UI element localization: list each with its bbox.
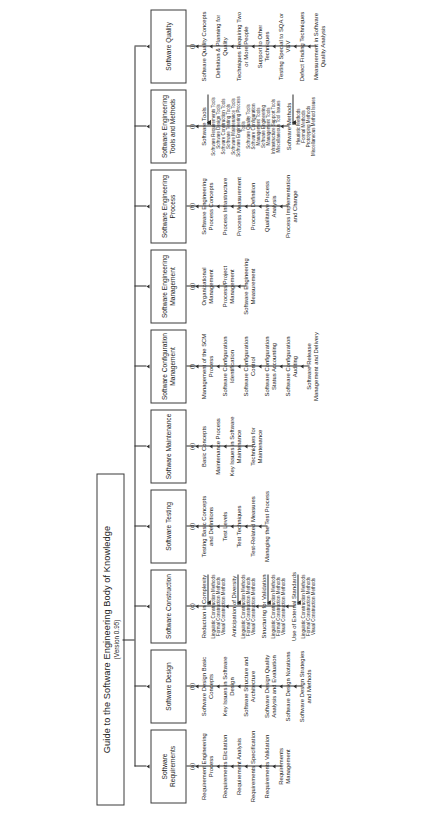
connector-line (186, 365, 309, 366)
subtopic-group: Heuristic MethodsFormal MethodsPrototypi… (295, 90, 315, 162)
arrow-head (244, 204, 247, 208)
arrow-head (207, 120, 210, 124)
arrow-head (146, 764, 149, 768)
arrow-head (216, 684, 219, 688)
arrow-head (292, 120, 295, 124)
arrow-head (280, 124, 283, 128)
root-title: Guide to the Software Engineering Body o… (101, 525, 112, 752)
connector-line (207, 94, 208, 124)
arrow-head (146, 204, 149, 208)
arrow-head (195, 764, 198, 768)
connector-line (186, 605, 294, 606)
knowledge-area-e: Software Maintenance(e) (150, 409, 186, 483)
arrow-head (258, 204, 261, 208)
arrow-head (297, 600, 300, 604)
knowledge-area-title: Software Engineering Tools and Methods (160, 92, 175, 160)
subtopic-item[interactable]: Formal Methods (300, 90, 305, 162)
arrow-head (272, 764, 275, 768)
knowledge-area-d: Software Testing(d) (150, 489, 186, 563)
arrow-head (237, 364, 240, 368)
connector-line (267, 574, 268, 604)
connector-line (134, 285, 146, 286)
knowledge-area-box[interactable]: Software Engineering Process (150, 169, 186, 243)
knowledge-area-title: Software Testing (164, 502, 172, 551)
knowledge-area-box[interactable]: Software Configuration Management (150, 329, 186, 403)
connector-line (186, 765, 281, 766)
arrow-head (258, 684, 261, 688)
arrow-head (146, 444, 149, 448)
arrow-head (230, 524, 233, 528)
arrow-head (146, 604, 149, 608)
arrow-head (195, 604, 198, 608)
arrow-head (279, 684, 282, 688)
arrow-head (244, 444, 247, 448)
arrow-head (244, 764, 247, 768)
arrow-head (209, 444, 212, 448)
arrow-head (195, 44, 198, 48)
knowledge-area-title: Software Engineering Management (160, 252, 175, 320)
arrow-head (195, 444, 198, 448)
arrow-head (279, 364, 282, 368)
arrow-head (216, 764, 219, 768)
arrow-head (216, 284, 219, 288)
connector-line (134, 205, 146, 206)
connector-line (134, 46, 135, 766)
connector-line (134, 765, 146, 766)
knowledge-area-title: Software Requirements (160, 732, 175, 800)
arrow-head (258, 764, 261, 768)
topic-item[interactable]: Software MethodsHeuristic MethodsFormal … (285, 89, 315, 163)
arrow-head (293, 684, 296, 688)
knowledge-area-j: Software Quality(j) (150, 9, 186, 83)
connector-line (134, 365, 146, 366)
arrow-head (195, 684, 198, 688)
arrow-head (307, 44, 310, 48)
knowledge-area-box[interactable]: Software Requirements (150, 729, 186, 803)
arrow-head (146, 284, 149, 288)
subtopic-item[interactable]: Miscellaneous Method Issues (310, 90, 315, 162)
swebok-diagram-canvas: Guide to the Software Engineering Body o… (0, 0, 431, 823)
arrow-head (267, 600, 270, 604)
knowledge-area-title: Software Quality (164, 22, 172, 70)
arrow-head (207, 600, 210, 604)
subtopic-item[interactable]: Prototyping Methods (305, 90, 310, 162)
arrow-head (300, 364, 303, 368)
arrow-head (216, 524, 219, 528)
arrow-head (237, 684, 240, 688)
connector-line (292, 94, 293, 124)
connector-line (122, 639, 134, 640)
connector-line (134, 525, 146, 526)
knowledge-area-h: Software Engineering Process(h) (150, 169, 186, 243)
knowledge-area-box[interactable]: Software Construction (150, 569, 186, 643)
connector-line (186, 205, 288, 206)
knowledge-area-box[interactable]: Software Testing (150, 489, 186, 563)
knowledge-area-title: Software Construction (164, 574, 172, 639)
arrow-head (195, 124, 198, 128)
arrow-head (223, 444, 226, 448)
arrow-head (209, 44, 212, 48)
connector-line (207, 574, 208, 604)
arrow-head (195, 364, 198, 368)
arrow-head (146, 44, 149, 48)
knowledge-area-box[interactable]: Software Engineering Tools and Methods (150, 89, 186, 163)
knowledge-area-i: Software Engineering Tools and Methods(i… (150, 89, 186, 163)
arrow-head (237, 600, 240, 604)
arrow-head (244, 524, 247, 528)
knowledge-area-box[interactable]: Software Maintenance (150, 409, 186, 483)
root-version: (Version 0.95) (112, 619, 119, 659)
subtopic-item[interactable]: Formal Construction Methods (305, 570, 310, 642)
root-node: Guide to the Software Engineering Body o… (96, 473, 124, 805)
arrow-head (258, 364, 261, 368)
connector-line (134, 685, 146, 686)
arrow-head (272, 44, 275, 48)
knowledge-area-box[interactable]: Software Quality (150, 9, 186, 83)
knowledge-area-box[interactable]: Software Engineering Management (150, 249, 186, 323)
connector-line (134, 45, 146, 46)
arrow-head (225, 604, 228, 608)
subtopic-item[interactable]: Heuristic Methods (295, 90, 300, 162)
subtopic-item[interactable]: Linguistic Construction Methods (300, 570, 305, 642)
subtopic-item[interactable]: Visual Construction Methods (310, 570, 315, 642)
knowledge-area-box[interactable]: Software Design (150, 649, 186, 723)
arrow-head (195, 204, 198, 208)
diagram-stage: Guide to the Software Engineering Body o… (0, 0, 431, 823)
arrow-head (230, 44, 233, 48)
